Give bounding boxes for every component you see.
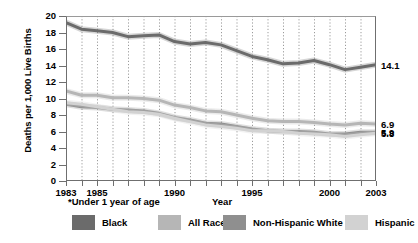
x-axis-tick bbox=[252, 181, 253, 186]
y-axis-tick bbox=[59, 82, 66, 83]
legend-color-swatch bbox=[223, 215, 246, 230]
legend-color-swatch bbox=[345, 215, 368, 230]
y-axis-tick-label: 4 bbox=[14, 143, 56, 153]
legend-item[interactable]: Black bbox=[72, 213, 127, 231]
x-axis-tick bbox=[283, 181, 284, 186]
x-axis-tick bbox=[113, 181, 114, 186]
footnote: *Under 1 year of age bbox=[68, 196, 160, 207]
x-axis-tick bbox=[175, 181, 176, 186]
y-axis-tick-label: 2 bbox=[14, 160, 56, 170]
x-axis-tick bbox=[144, 181, 145, 186]
y-axis-tick-label: 16 bbox=[14, 44, 56, 54]
series-end-label: 14.1 bbox=[381, 60, 400, 71]
plot-frame bbox=[66, 16, 376, 181]
y-axis-tick bbox=[59, 99, 66, 100]
x-axis-tick-label: 2000 bbox=[310, 187, 350, 198]
x-axis-tick bbox=[128, 181, 129, 186]
x-axis-tick-label: 2003 bbox=[356, 187, 396, 198]
y-axis-tick bbox=[59, 33, 66, 34]
y-axis-tick-label: 14 bbox=[14, 61, 56, 71]
y-axis-tick-label: 20 bbox=[14, 11, 56, 21]
x-axis-tick bbox=[221, 181, 222, 186]
legend-label: Hispanic bbox=[375, 217, 415, 228]
y-axis-tick-label: 0 bbox=[14, 176, 56, 186]
x-axis-tick bbox=[299, 181, 300, 186]
x-axis-tick bbox=[206, 181, 207, 186]
infant-mortality-line-chart: Deaths per 1,000 Live Births 02468101214… bbox=[0, 0, 418, 243]
legend-label: Non-Hispanic White bbox=[253, 217, 343, 228]
x-axis-tick bbox=[190, 181, 191, 186]
x-axis-tick-label: 1990 bbox=[155, 187, 195, 198]
y-axis-tick-label: 6 bbox=[14, 127, 56, 137]
x-axis-tick bbox=[314, 181, 315, 186]
x-axis-tick bbox=[66, 181, 67, 186]
legend-item[interactable]: Hispanic bbox=[345, 213, 415, 231]
x-axis-tick bbox=[330, 181, 331, 186]
x-axis-tick bbox=[159, 181, 160, 186]
legend-color-swatch bbox=[72, 215, 95, 230]
y-axis-tick-label: 10 bbox=[14, 94, 56, 104]
x-axis-tick bbox=[376, 181, 377, 186]
y-axis-tick-label: 18 bbox=[14, 28, 56, 38]
x-axis-title: Year bbox=[212, 196, 232, 207]
legend-item[interactable]: All Races bbox=[158, 213, 231, 231]
y-axis-tick bbox=[59, 181, 66, 182]
y-axis-tick bbox=[59, 165, 66, 166]
legend-color-swatch bbox=[158, 215, 181, 230]
x-axis-tick bbox=[361, 181, 362, 186]
x-axis-tick bbox=[237, 181, 238, 186]
x-axis-tick bbox=[82, 181, 83, 186]
y-axis-tick bbox=[59, 49, 66, 50]
legend-item[interactable]: Non-Hispanic White bbox=[223, 213, 343, 231]
y-axis-tick bbox=[59, 16, 66, 17]
x-axis-tick bbox=[268, 181, 269, 186]
legend-label: Black bbox=[102, 217, 127, 228]
y-axis-tick bbox=[59, 148, 66, 149]
x-axis-tick bbox=[345, 181, 346, 186]
y-axis-tick-label: 8 bbox=[14, 110, 56, 120]
y-axis-tick bbox=[59, 132, 66, 133]
series-end-label: 5.8 bbox=[381, 128, 394, 139]
x-axis-tick bbox=[97, 181, 98, 186]
x-axis-tick-label: 1995 bbox=[232, 187, 272, 198]
y-axis-tick bbox=[59, 66, 66, 67]
y-axis-tick-label: 12 bbox=[14, 77, 56, 87]
y-axis-tick bbox=[59, 115, 66, 116]
chart-legend: BlackAll RacesNon-Hispanic WhiteHispanic bbox=[0, 213, 418, 239]
